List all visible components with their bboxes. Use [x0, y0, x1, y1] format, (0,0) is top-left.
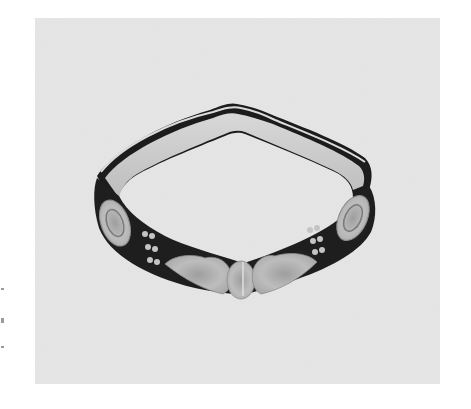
center-oval	[227, 261, 255, 299]
scan-mark	[1, 346, 4, 348]
scan-mark	[1, 288, 4, 290]
scan-mark	[1, 318, 4, 323]
headband-illustration	[35, 18, 440, 384]
scan-artifacts	[0, 280, 8, 360]
headband-photo: Black-and-white photograph of a dark bea…	[35, 18, 440, 384]
page: Black-and-white photograph of a dark bea…	[0, 0, 471, 409]
